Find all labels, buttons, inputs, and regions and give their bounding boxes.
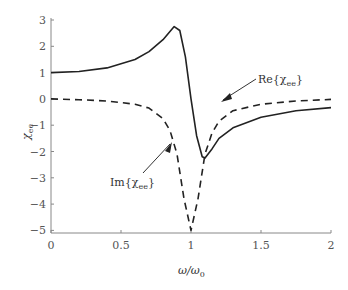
y-tick-label: 2 — [39, 40, 46, 53]
axes: 3210−1−2−3−4−500.511.52 — [30, 14, 335, 252]
re-annotation: Re{χee} — [221, 73, 303, 102]
y-axis-label: χee — [20, 124, 35, 141]
y-tick-label: −4 — [30, 198, 46, 211]
x-tick-label: 0.5 — [112, 239, 130, 252]
im-curve — [51, 99, 331, 231]
svg-text:Re{χee}: Re{χee} — [258, 73, 303, 88]
y-tick-label: −2 — [30, 146, 46, 159]
x-tick-label: 1 — [188, 239, 195, 252]
y-tick-label: 3 — [39, 14, 46, 27]
series-layer — [51, 27, 331, 231]
y-tick-label: −3 — [30, 172, 46, 185]
svg-text:Im{χee}: Im{χee} — [110, 176, 155, 191]
chart: 3210−1−2−3−4−500.511.52 Re{χee} Im{χee} … — [0, 0, 348, 290]
y-tick-label: 0 — [39, 93, 46, 106]
x-axis-label: ω/ω0 — [178, 264, 205, 279]
x-tick-label: 2 — [328, 239, 335, 252]
im-annotation: Im{χee} — [110, 142, 172, 191]
y-tick-label: −5 — [30, 224, 46, 237]
re-curve — [51, 27, 331, 159]
x-tick-label: 1.5 — [252, 239, 270, 252]
y-tick-label: 1 — [39, 67, 46, 80]
x-tick-label: 0 — [48, 239, 55, 252]
